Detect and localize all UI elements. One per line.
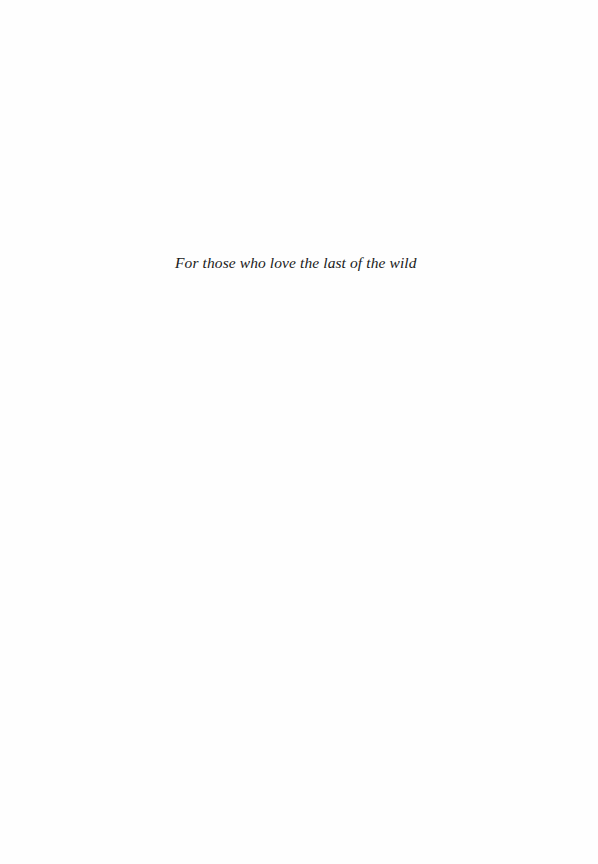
document-page: For those who love the last of the wild xyxy=(0,0,598,864)
dedication-text: For those who love the last of the wild xyxy=(175,254,417,272)
